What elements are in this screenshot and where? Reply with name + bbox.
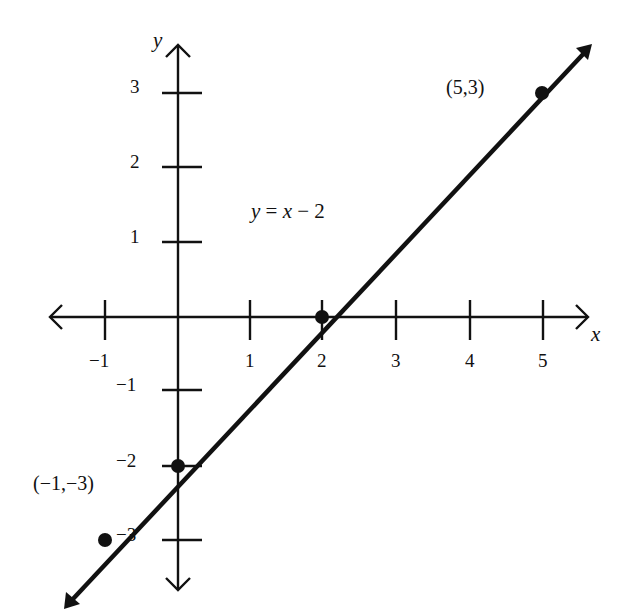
x-tick-label-3: 3 <box>391 351 401 370</box>
x-tick-label-neg1: −1 <box>89 351 109 370</box>
equation-var: x <box>283 199 292 223</box>
equation-label: y = x − 2 <box>251 201 325 222</box>
equation-lhs: y <box>251 199 260 223</box>
x-tick-label-5: 5 <box>538 351 548 370</box>
point-label-5-3: (5,3) <box>446 77 484 97</box>
x-axis-label: x <box>591 324 600 345</box>
equation-rest: − 2 <box>292 199 325 223</box>
y-tick-label-1: 1 <box>130 227 140 246</box>
point-neg1-neg3 <box>98 533 112 547</box>
x-tick-label-1: 1 <box>245 351 255 370</box>
y-tick-label-neg3: −3 <box>116 525 136 544</box>
y-tick-label-neg2: −2 <box>116 451 136 470</box>
equation-equals: = <box>260 199 282 223</box>
x-tick-label-4: 4 <box>465 351 475 370</box>
point-5-3 <box>535 86 549 100</box>
line-y-equals-x-minus-2 <box>64 44 592 609</box>
y-tick-label-2: 2 <box>130 152 140 171</box>
point-2-0 <box>315 310 329 324</box>
coordinate-plane-figure: y x 3 2 1 −1 −2 −3 −1 1 2 3 4 5 y = x − … <box>0 0 634 615</box>
point-0-neg2 <box>171 459 185 473</box>
y-axis-label: y <box>153 30 162 51</box>
x-tick-label-2: 2 <box>317 351 327 370</box>
y-tick-label-3: 3 <box>130 77 140 96</box>
graph-canvas <box>0 0 634 615</box>
point-label-neg1-neg3: (−1,−3) <box>33 473 94 493</box>
y-tick-label-neg1: −1 <box>116 375 136 394</box>
